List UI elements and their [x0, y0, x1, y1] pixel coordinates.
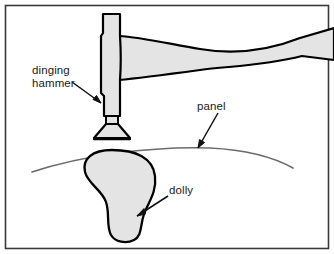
label-dolly: dolly — [169, 184, 193, 196]
label-dinging-hammer-line2: hammer — [32, 77, 75, 89]
page-background — [0, 0, 334, 254]
label-dinging-hammer-line1: dinging — [32, 64, 70, 76]
figure-container: dinging hammer panel dolly — [0, 0, 334, 254]
diagram-canvas: dinging hammer panel dolly — [0, 0, 334, 254]
hammer-neck — [106, 116, 118, 124]
label-panel: panel — [197, 100, 226, 112]
hammer-head — [101, 14, 121, 116]
